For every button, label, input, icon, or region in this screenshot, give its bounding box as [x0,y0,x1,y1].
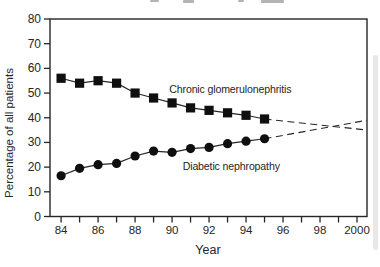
x-axis-title: Year [195,243,220,257]
plot-border [50,19,367,217]
x-tick-label: 2000 [344,224,370,236]
circle-marker [149,146,158,155]
y-tick-label: 40 [28,111,42,125]
chart-generated-content: 0102030405060708084868890929496982000Chr… [28,12,370,236]
circle-marker [223,139,232,148]
square-marker [223,108,232,117]
chart-canvas: Percentage of all patients Year 01020304… [0,0,380,267]
y-tick-label: 20 [28,160,42,174]
series-label: Chronic glomerulonephritis [169,83,291,95]
square-marker [112,79,121,88]
y-tick-label: 50 [28,86,42,100]
x-tick-label: 92 [203,224,216,236]
y-tick-label: 0 [34,210,41,224]
circle-marker [186,144,195,153]
circle-marker [204,143,213,152]
y-tick-label: 80 [28,12,42,26]
circle-marker [75,164,84,173]
circle-marker [260,134,269,143]
cropped-text-remnant [150,0,159,2]
y-tick-label: 10 [28,185,42,199]
cropped-text-remnant [183,0,194,3]
line-chart: Percentage of all patients Year 01020304… [0,0,380,267]
circle-marker [130,151,139,160]
cropped-text-remnant [238,0,244,2]
x-tick-label: 86 [92,224,105,236]
circle-marker [56,171,65,180]
y-tick-label: 30 [28,135,42,149]
x-tick-label: 90 [166,224,179,236]
square-marker [260,114,269,123]
x-tick-label: 84 [55,224,68,236]
square-marker [204,106,213,115]
y-tick-label: 60 [28,61,42,75]
x-tick-label: 96 [277,224,290,236]
square-marker [75,79,84,88]
x-tick-label: 88 [129,224,142,236]
square-marker [186,103,195,112]
square-marker [56,74,65,83]
circle-marker [167,148,176,157]
trend-extrapolation-line [265,119,367,130]
square-marker [149,93,158,102]
y-tick-label: 70 [28,37,42,51]
circle-marker [93,160,102,169]
square-marker [241,111,250,120]
trend-extrapolation-line [265,120,367,139]
x-tick-label: 94 [240,224,253,236]
square-marker [130,88,139,97]
square-marker [93,76,102,85]
circle-marker [241,137,250,146]
x-tick-label: 98 [314,224,327,236]
y-axis-title: Percentage of all patients [3,68,15,198]
circle-marker [112,159,121,168]
series-label: Diabetic nephropathy [183,160,281,172]
cropped-text-remnant [261,0,284,3]
square-marker [167,98,176,107]
scan-edge-artifact [373,55,378,250]
